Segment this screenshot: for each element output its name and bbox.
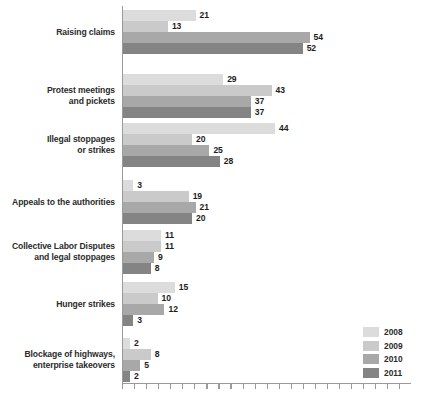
bar-value-label: 20 (196, 213, 205, 224)
x-axis-tick (230, 384, 231, 389)
category-label-line: or strikes (0, 145, 115, 156)
bar-value-label: 44 (279, 123, 288, 134)
bar-2008[interactable] (123, 282, 175, 293)
bar-value-label: 8 (155, 263, 160, 274)
category-label-line: and pickets (0, 96, 115, 107)
x-axis-tick (387, 384, 388, 389)
x-axis-tick (134, 384, 135, 389)
bar-chart: Raising claims21135452Protest meetingsan… (0, 0, 423, 402)
x-axis-tick (182, 384, 183, 389)
category-label: Protest meetingsand pickets (0, 85, 115, 107)
x-axis-tick (303, 384, 304, 389)
bar-value-label: 2 (134, 371, 139, 382)
x-axis-tick (146, 384, 147, 389)
x-axis-tick (243, 384, 244, 389)
bar-value-label: 52 (307, 43, 316, 54)
bar-value-label: 12 (168, 304, 177, 315)
x-axis-tick (315, 384, 316, 389)
legend-label: 2010 (384, 353, 403, 365)
category-label-line: enterprise takeovers (0, 360, 115, 371)
legend-label: 2008 (384, 326, 403, 338)
bar-2010[interactable] (123, 96, 251, 107)
x-axis-tick (279, 384, 280, 389)
bar-value-label: 37 (255, 107, 264, 118)
x-axis-tick (194, 384, 195, 389)
bar-2009[interactable] (123, 191, 189, 202)
bar-value-label: 37 (255, 96, 264, 107)
category-label-line: Raising claims (0, 27, 115, 38)
bar-2010[interactable] (123, 304, 164, 315)
bar-value-label: 29 (227, 74, 236, 85)
bar-value-label: 10 (162, 293, 171, 304)
bar-value-label: 21 (200, 10, 209, 21)
bar-2008[interactable] (123, 338, 130, 349)
x-axis-tick (291, 384, 292, 389)
bar-value-label: 11 (165, 241, 174, 252)
category-label-line: Appeals to the authorities (0, 197, 115, 208)
bar-value-label: 2 (134, 338, 139, 349)
bar-value-label: 43 (276, 85, 285, 96)
category-label: Appeals to the authorities (0, 197, 115, 208)
bar-2008[interactable] (123, 10, 196, 21)
bar-2009[interactable] (123, 21, 168, 32)
category-label: Collective Labor Disputesand legal stopp… (0, 241, 115, 263)
legend-swatch-icon (363, 354, 379, 364)
bar-2011[interactable] (123, 43, 303, 54)
x-axis-tick (339, 384, 340, 389)
x-axis-tick (351, 384, 352, 389)
plot-area: Raising claims21135452Protest meetingsan… (0, 0, 423, 402)
bar-2008[interactable] (123, 230, 161, 241)
x-axis-tick (170, 384, 171, 389)
bar-2009[interactable] (123, 134, 192, 145)
category-label-line: Collective Labor Disputes (0, 241, 115, 252)
bar-2010[interactable] (123, 202, 196, 213)
bar-value-label: 54 (314, 32, 323, 43)
category-label-line: and legal stoppages (0, 252, 115, 263)
bar-2011[interactable] (123, 107, 251, 118)
bar-value-label: 21 (200, 202, 209, 213)
bar-2009[interactable] (123, 293, 158, 304)
legend-swatch-icon (363, 368, 379, 378)
x-axis-tick (399, 384, 400, 389)
bar-value-label: 3 (137, 180, 142, 191)
bar-2009[interactable] (123, 241, 161, 252)
bar-2010[interactable] (123, 252, 154, 263)
bar-2011[interactable] (123, 213, 192, 224)
bar-2009[interactable] (123, 349, 151, 360)
x-axis-tick (327, 384, 328, 389)
bar-value-label: 9 (158, 252, 163, 263)
bar-2011[interactable] (123, 315, 133, 326)
bar-value-label: 8 (155, 349, 160, 360)
legend-swatch-icon (363, 327, 379, 337)
bar-value-label: 5 (144, 360, 149, 371)
category-label: Hunger strikes (0, 299, 115, 310)
category-label-line: Illegal stoppages (0, 134, 115, 145)
category-label: Blockage of highways,enterprise takeover… (0, 349, 115, 371)
category-label: Illegal stoppagesor strikes (0, 134, 115, 156)
bar-2010[interactable] (123, 360, 140, 371)
bar-2008[interactable] (123, 123, 275, 134)
bar-2011[interactable] (123, 156, 220, 167)
bar-2008[interactable] (123, 180, 133, 191)
category-label-line: Blockage of highways, (0, 349, 115, 360)
bar-value-label: 15 (179, 282, 188, 293)
bar-2010[interactable] (123, 32, 310, 43)
bar-value-label: 3 (137, 315, 142, 326)
bar-value-label: 20 (196, 134, 205, 145)
x-axis-tick (122, 384, 123, 389)
bar-value-label: 19 (193, 191, 202, 202)
bar-value-label: 25 (213, 145, 222, 156)
bar-2010[interactable] (123, 145, 209, 156)
legend-label: 2011 (384, 367, 402, 379)
bar-2011[interactable] (123, 263, 151, 274)
bar-2008[interactable] (123, 74, 223, 85)
category-label: Raising claims (0, 27, 115, 38)
x-axis-tick (375, 384, 376, 389)
bar-2011[interactable] (123, 371, 130, 382)
bar-value-label: 28 (224, 156, 233, 167)
x-axis-tick (158, 384, 159, 389)
bar-2009[interactable] (123, 85, 272, 96)
bar-value-label: 13 (172, 21, 181, 32)
category-label-line: Hunger strikes (0, 299, 115, 310)
x-axis-tick (255, 384, 256, 389)
